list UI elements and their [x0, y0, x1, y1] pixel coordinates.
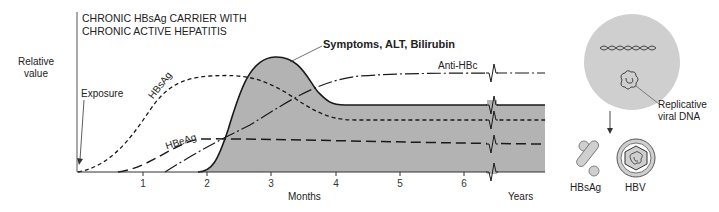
hbsag-particle-label: HBsAg: [570, 182, 601, 194]
y-label-line-1: Relative: [16, 56, 56, 68]
x-ticks: [143, 172, 464, 176]
axis-break-markers: [486, 64, 498, 181]
x-tick-3: 3: [268, 178, 274, 189]
title-line-2: CHRONIC ACTIVE HEPATITIS: [82, 25, 247, 38]
x-tick-4: 4: [333, 178, 339, 189]
anti-hbc-label: Anti-HBc: [438, 60, 477, 72]
replicative-dna-label: Replicative viral DNA: [658, 99, 707, 123]
x-tick-5: 5: [397, 178, 403, 189]
x-axis-label-years: Years: [508, 191, 533, 203]
hbv-particle-icon: [617, 139, 655, 177]
hbsag-particle-icon: [575, 139, 601, 176]
x-axis-label-months: Months: [288, 191, 321, 203]
x-tick-6: 6: [461, 178, 467, 189]
symptoms-label: Symptoms, ALT, Bilirubin: [323, 38, 455, 50]
replicative-line-1: Replicative: [658, 99, 707, 111]
chart-title: CHRONIC HBsAg CARRIER WITH CHRONIC ACTIV…: [82, 12, 247, 38]
exposure-label: Exposure: [81, 88, 123, 100]
x-tick-2: 2: [204, 178, 210, 189]
title-line-1: CHRONIC HBsAg CARRIER WITH: [82, 12, 247, 25]
y-axis-label: Relative value: [16, 56, 56, 80]
exposure-arrow: [77, 100, 84, 165]
x-tick-1: 1: [140, 178, 146, 189]
symptoms-leader: [290, 46, 322, 62]
replicative-line-2: viral DNA: [658, 111, 707, 123]
hbv-particle-label: HBV: [625, 182, 646, 194]
y-label-line-2: value: [16, 68, 56, 80]
